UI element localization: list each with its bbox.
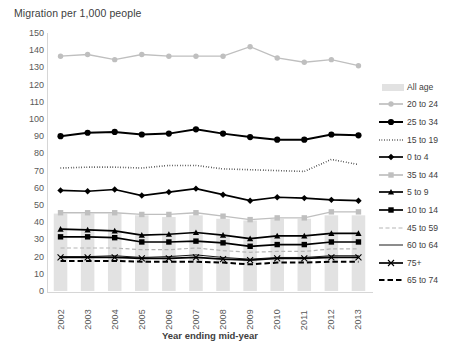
series-layer [47, 33, 372, 291]
chart-title: Migration per 1,000 people [14, 7, 142, 19]
y-tick-label: 90 [4, 131, 44, 141]
legend-key-icon [378, 204, 404, 216]
legend-item-15-to-19[interactable]: 15 to 19 [378, 131, 458, 149]
series-5-to-9 [57, 226, 361, 241]
y-tick-label: 110 [4, 97, 44, 107]
legend-label: 5 to 9 [407, 187, 458, 197]
legend-label: All age [407, 82, 458, 92]
y-tick-label: 130 [4, 62, 44, 72]
y-tick-label: 30 [4, 234, 44, 244]
legend-item-60-to-64[interactable]: 60 to 64 [378, 236, 458, 254]
y-tick-label: 20 [4, 252, 44, 262]
series-0-to-4 [57, 185, 361, 203]
y-tick-label: 60 [4, 183, 44, 193]
x-tick-label: 2013 [353, 309, 363, 330]
y-tick-label: 40 [4, 217, 44, 227]
migration-chart: Migration per 1,000 people 0102030405060… [0, 0, 460, 346]
legend-label: 75+ [407, 258, 458, 268]
legend-key-icon [378, 116, 404, 128]
plot-area [47, 33, 372, 291]
x-tick-label: 2006 [164, 309, 174, 330]
y-tick-label: 0 [4, 286, 44, 296]
legend-item-20-to-24[interactable]: 20 to 24 [378, 96, 458, 114]
series-25-to-34 [57, 126, 361, 143]
legend-key-icon [378, 239, 404, 251]
series-15-to-19 [61, 159, 359, 171]
legend-key-icon [378, 151, 404, 163]
legend-key-icon [378, 274, 404, 286]
legend-item-all-age[interactable]: All age [378, 78, 458, 96]
legend-label: 25 to 34 [407, 117, 458, 127]
legend-key-icon [378, 169, 404, 181]
x-tick-label: 2012 [326, 309, 336, 330]
y-tick-label: 150 [4, 28, 44, 38]
legend-label: 45 to 59 [407, 223, 458, 233]
legend-item-75+[interactable]: 75+ [378, 254, 458, 272]
legend-item-65-to-74[interactable]: 65 to 74 [378, 272, 458, 290]
x-tick-label: 2003 [83, 309, 93, 330]
series-10-to-14 [58, 234, 361, 249]
y-tick-label: 70 [4, 166, 44, 176]
x-tick-label: 2010 [272, 309, 282, 330]
chart-legend: All age20 to 2425 to 3415 to 190 to 435 … [378, 78, 458, 289]
y-tick-label: 10 [4, 269, 44, 279]
legend-label: 15 to 19 [407, 135, 458, 145]
legend-label: 0 to 4 [407, 152, 458, 162]
x-axis-ticks: 2002200320042005200620072008200920102011… [47, 296, 373, 330]
legend-key-icon [378, 222, 404, 234]
x-tick-label: 2008 [218, 309, 228, 330]
series-45-to-59 [61, 248, 359, 252]
legend-item-10-to-14[interactable]: 10 to 14 [378, 201, 458, 219]
series-20-to-24 [58, 44, 361, 68]
legend-item-5-to-9[interactable]: 5 to 9 [378, 184, 458, 202]
legend-label: 20 to 24 [407, 99, 458, 109]
y-axis-ticks: 0102030405060708090100110120130140150 [0, 33, 44, 292]
series-65-to-74 [61, 261, 359, 264]
legend-key-icon [378, 134, 404, 146]
legend-item-35-to-44[interactable]: 35 to 44 [378, 166, 458, 184]
y-tick-label: 100 [4, 114, 44, 124]
x-tick-label: 2004 [110, 309, 120, 330]
legend-label: 60 to 64 [407, 240, 458, 250]
legend-key-icon [378, 257, 404, 269]
series-all-age [54, 214, 365, 291]
series-35-to-44 [58, 209, 361, 222]
legend-key-icon [378, 81, 404, 93]
x-axis-line [47, 292, 373, 293]
legend-label: 65 to 74 [407, 275, 458, 285]
x-tick-label: 2009 [245, 309, 255, 330]
legend-label: 35 to 44 [407, 170, 458, 180]
legend-key-icon [378, 186, 404, 198]
legend-label: 10 to 14 [407, 205, 458, 215]
x-tick-label: 2011 [299, 310, 309, 330]
x-tick-label: 2007 [191, 309, 201, 330]
legend-item-0-to-4[interactable]: 0 to 4 [378, 148, 458, 166]
y-tick-label: 80 [4, 148, 44, 158]
y-tick-label: 140 [4, 45, 44, 55]
y-tick-label: 120 [4, 80, 44, 90]
x-tick-label: 2002 [56, 309, 66, 330]
x-tick-label: 2005 [137, 309, 147, 330]
legend-item-45-to-59[interactable]: 45 to 59 [378, 219, 458, 237]
x-axis-label: Year ending mid-year [47, 330, 373, 341]
legend-item-25-to-34[interactable]: 25 to 34 [378, 113, 458, 131]
legend-key-icon [378, 98, 404, 110]
y-tick-label: 50 [4, 200, 44, 210]
